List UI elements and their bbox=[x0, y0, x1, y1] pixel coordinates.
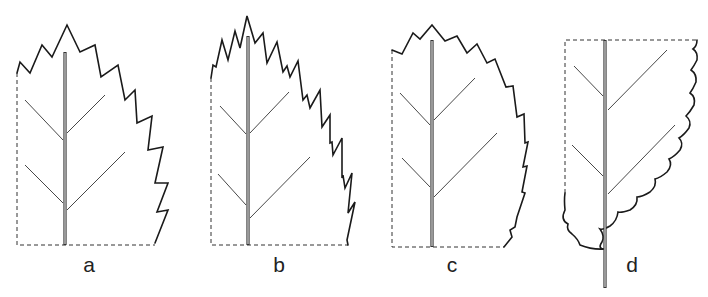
leaf-a-margin bbox=[17, 25, 168, 243]
leaf-b-vein bbox=[250, 157, 310, 218]
leaf-c-vein bbox=[400, 93, 430, 125]
leaf-a-reference-outline bbox=[17, 73, 155, 245]
leaf-d bbox=[563, 40, 697, 288]
leaf-b-vein bbox=[218, 174, 246, 205]
leaf-c-reference-outline bbox=[392, 50, 504, 247]
leaf-b-margin bbox=[211, 16, 355, 245]
leaf-a-vein bbox=[25, 165, 63, 203]
leaf-b-label: b bbox=[273, 254, 285, 275]
leaf-b-vein bbox=[250, 92, 289, 133]
leaf-d-margin bbox=[563, 40, 697, 249]
leaf-c-vein bbox=[434, 78, 475, 120]
leaf-a-label: a bbox=[83, 254, 95, 275]
leaf-a bbox=[17, 25, 168, 245]
leaf-c-label: c bbox=[447, 254, 458, 275]
leaf-d-vein bbox=[572, 145, 603, 176]
leaf-b-reference-outline bbox=[211, 78, 348, 245]
leaf-margin-diagram bbox=[0, 0, 708, 297]
leaf-d-label: d bbox=[626, 254, 638, 275]
leaf-c-vein bbox=[402, 158, 430, 187]
leaf-d-vein bbox=[608, 125, 675, 194]
leaf-c bbox=[392, 25, 528, 247]
leaf-c-margin bbox=[392, 25, 528, 247]
leaf-d-vein bbox=[574, 66, 603, 96]
leaf-a-vein bbox=[67, 95, 105, 133]
leaf-c-vein bbox=[434, 133, 497, 197]
leaf-a-vein bbox=[67, 152, 125, 210]
leaf-d-vein bbox=[608, 50, 667, 110]
leaf-a-vein bbox=[25, 100, 63, 140]
leaf-b bbox=[211, 16, 355, 245]
leaf-b-vein bbox=[220, 106, 246, 134]
